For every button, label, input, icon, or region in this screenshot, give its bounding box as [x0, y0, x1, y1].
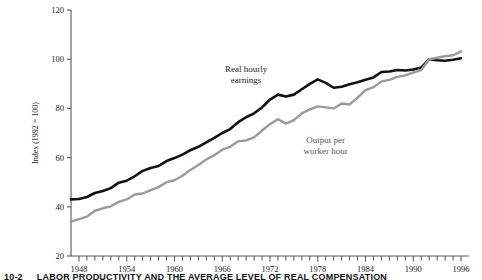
series-line-output-per-worker-hour — [71, 51, 461, 221]
axis-lines-group — [71, 10, 469, 256]
y-axis-label-group: Index (1992 = 100) — [31, 102, 40, 164]
y-axis-tick-label: 20 — [56, 251, 65, 261]
figure-number: 10-2 — [4, 272, 23, 280]
figure-caption-text: LABOR PRODUCTIVITY AND THE AVERAGE LEVEL… — [37, 272, 387, 280]
annotation-real-hourly-earnings: earnings — [231, 75, 262, 85]
y-axis-title: Index (1992 = 100) — [31, 102, 40, 164]
y-axis-tick-label: 120 — [51, 5, 64, 15]
figure-container: Index (1992 = 100) 20406080100120 194819… — [0, 0, 482, 280]
annotation-output-per-worker-hour: worker hour — [304, 146, 348, 156]
series-annotations-group: Real hourlyearningsOutput perworker hour — [225, 64, 348, 156]
data-series-group — [71, 51, 461, 221]
y-axis-tick-label: 80 — [56, 103, 65, 113]
figure-caption: 10-2LABOR PRODUCTIVITY AND THE AVERAGE L… — [4, 272, 482, 280]
chart-canvas: Index (1992 = 100) 20406080100120 194819… — [0, 0, 482, 280]
y-axis-tick-label: 100 — [51, 54, 64, 64]
y-axis-ticks-group: 20406080100120 — [51, 5, 71, 261]
y-axis-tick-label: 40 — [56, 202, 65, 212]
annotation-real-hourly-earnings: Real hourly — [225, 64, 268, 74]
y-axis-tick-label: 60 — [56, 153, 65, 163]
annotation-output-per-worker-hour: Output per — [306, 135, 345, 145]
